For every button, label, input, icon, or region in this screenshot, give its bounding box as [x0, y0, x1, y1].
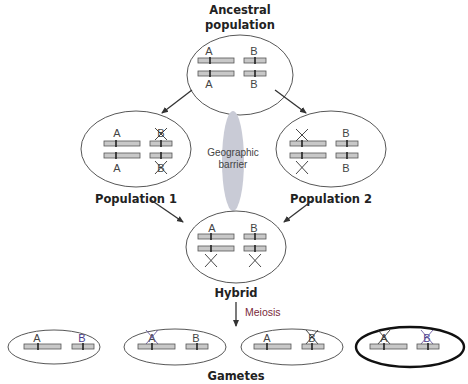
allele-label: A	[113, 127, 121, 139]
geographic-barrier: Geographic barrier	[207, 111, 259, 211]
gamete-3: A B	[241, 329, 343, 365]
allele-label: B	[250, 45, 257, 57]
ancestral-title-line1: Ancestral	[209, 3, 270, 17]
gamete-2: A B	[124, 329, 226, 365]
ancestral-title-line2: population	[205, 18, 275, 32]
allele-label: A	[33, 332, 41, 344]
allele-label: A	[205, 45, 213, 57]
allele-label: A	[113, 162, 121, 174]
gamete-4-highlighted: A B	[356, 327, 464, 367]
meiosis-label: Meiosis	[245, 306, 281, 318]
population1-title: Population 1	[95, 192, 177, 206]
speciation-diagram: Ancestral population A B A B Geographic …	[0, 0, 468, 384]
allele-label: B	[342, 127, 349, 139]
population1: A B A B	[81, 111, 191, 187]
population2-title: Population 2	[290, 192, 372, 206]
hybrid-title: Hybrid	[214, 286, 257, 300]
allele-label: B	[250, 78, 257, 90]
gamete-1: A B	[8, 330, 100, 364]
allele-label: A	[208, 222, 216, 234]
ancestral-population: A B A B	[187, 35, 293, 115]
hybrid: A B	[186, 211, 286, 283]
arrow-to-population1	[162, 90, 192, 113]
allele-label: A	[263, 332, 271, 344]
allele-label: B	[78, 332, 85, 344]
allele-label: B	[192, 332, 199, 344]
allele-label: B	[342, 162, 349, 174]
allele-label: A	[205, 78, 213, 90]
population2: B B	[276, 111, 386, 187]
gametes-title: Gametes	[207, 369, 264, 383]
allele-label: B	[250, 222, 257, 234]
barrier-label-line2: barrier	[219, 159, 249, 170]
barrier-label-line1: Geographic	[207, 147, 259, 158]
